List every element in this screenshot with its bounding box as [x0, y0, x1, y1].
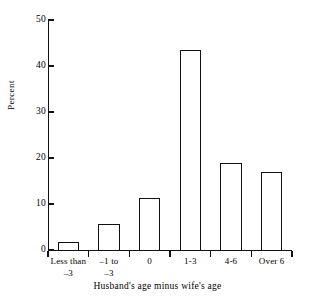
y-axis-line [48, 19, 49, 251]
y-tick-label: 40 [16, 61, 46, 71]
x-tick-label: –1 to–3 [89, 256, 130, 279]
x-tick-label: 1-3 [170, 256, 211, 268]
y-tick-label: 0 [16, 245, 46, 255]
x-tick-label-line: 4-6 [211, 256, 252, 268]
x-tick-label-line: 0 [129, 256, 170, 268]
x-tick-label-line: Over 6 [251, 256, 292, 268]
bar [261, 172, 282, 250]
bar [139, 198, 160, 250]
y-axis-title: Percent [6, 80, 16, 110]
y-tick-label: 20 [16, 153, 46, 163]
x-tick-label: Over 6 [251, 256, 292, 268]
x-tick-label: 4-6 [211, 256, 252, 268]
x-tick-label-line: –1 to [89, 256, 130, 268]
y-tick-mark [49, 203, 54, 204]
y-tick-label: 10 [16, 199, 46, 209]
x-tick-label: Less than–3 [48, 256, 89, 279]
y-tick-mark [49, 249, 54, 250]
x-tick-label-line: –3 [89, 268, 130, 280]
x-tick-label-line: 1-3 [170, 256, 211, 268]
x-tick-label-line: Less than [48, 256, 89, 268]
bar [58, 242, 79, 250]
y-tick-mark [49, 19, 54, 20]
x-tick-label: 0 [129, 256, 170, 268]
bar-chart-figure: Percent 01020304050 Less than–3–1 to–301… [0, 0, 315, 300]
y-tick-mark [49, 157, 54, 158]
bar [220, 163, 241, 250]
x-axis-title: Husband's age minus wife's age [0, 281, 315, 291]
y-tick-mark [49, 65, 54, 66]
bar [98, 224, 119, 250]
y-tick-label: 50 [16, 15, 46, 25]
bar [180, 50, 201, 250]
y-tick-label: 30 [16, 107, 46, 117]
y-tick-mark [49, 111, 54, 112]
x-tick-label-line: –3 [48, 268, 89, 280]
